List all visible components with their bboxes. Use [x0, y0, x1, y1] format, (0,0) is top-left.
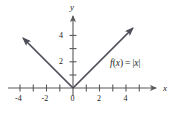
x-axis-label: x	[163, 84, 167, 93]
abs-bar-right: |	[139, 58, 141, 68]
function-equation-label: f(x) = |x|	[110, 59, 140, 69]
x-tick-label-neg4: -4	[15, 95, 22, 103]
function-close-paren: )	[120, 58, 123, 68]
x-tick-label-2: 2	[97, 95, 101, 103]
y-tick-label-4: 4	[59, 32, 63, 40]
x-tick-label-4: 4	[124, 95, 128, 103]
x-tick-label-neg2: -2	[42, 95, 49, 103]
y-axis-label: y	[70, 3, 74, 12]
function-equals-sign: =	[125, 58, 130, 68]
y-tick-label-2: 2	[59, 58, 63, 66]
function-curve-left-branch	[23, 38, 73, 88]
coordinate-plane-svg	[0, 0, 177, 115]
absolute-value-graph-figure: -4 -2 0 2 4 2 4 x y f(x) = |x|	[0, 0, 177, 115]
x-tick-label-zero: 0	[71, 95, 75, 103]
